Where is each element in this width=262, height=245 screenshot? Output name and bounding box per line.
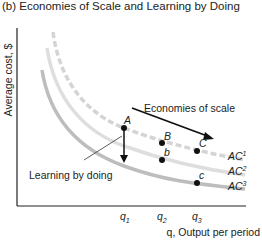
x-axis-label: q, Output per period <box>167 226 261 238</box>
point-A-label: A <box>123 114 131 126</box>
y-axis-label: Average cost, $ <box>2 43 14 116</box>
x-tick-q1: q1 <box>120 210 130 224</box>
x-tick-q2: q2 <box>157 210 167 224</box>
point-c-label: c <box>199 169 205 181</box>
chart-figure: (b) Economies of Scale and Learning by D… <box>0 0 262 245</box>
chart-svg: Average cost, $ Economies of scale Learn… <box>0 0 262 245</box>
x-tick-q3: q3 <box>192 210 202 224</box>
point-B-label: B <box>164 130 171 142</box>
point-b-label: b <box>164 146 170 158</box>
ac1-label: AC1 <box>227 150 247 162</box>
learning-label: Learning by doing <box>29 169 113 181</box>
point-C-label: C <box>199 137 207 149</box>
chart-title: (b) Economies of Scale and Learning by D… <box>2 0 240 12</box>
learning-arrowhead <box>120 155 128 163</box>
economies-label: Economies of scale <box>144 102 235 114</box>
